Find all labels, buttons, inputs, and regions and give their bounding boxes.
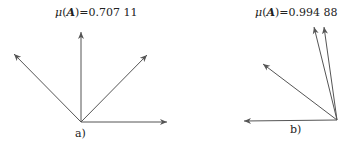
- caption-b: b): [290, 123, 301, 136]
- coherence-label-b: μ(A)=0.994 88: [255, 6, 338, 19]
- caption-a: a): [75, 127, 86, 140]
- figure-b-vectors: [244, 27, 337, 121]
- vector-arrow-3: [81, 55, 147, 122]
- figure-a-vectors: [14, 32, 167, 122]
- vector-arrow-4: [244, 120, 337, 121]
- vector-arrow-2: [14, 54, 81, 122]
- vector-arrow-3: [263, 64, 337, 120]
- coherence-label-a: μ(A)=0.707 11: [55, 6, 138, 19]
